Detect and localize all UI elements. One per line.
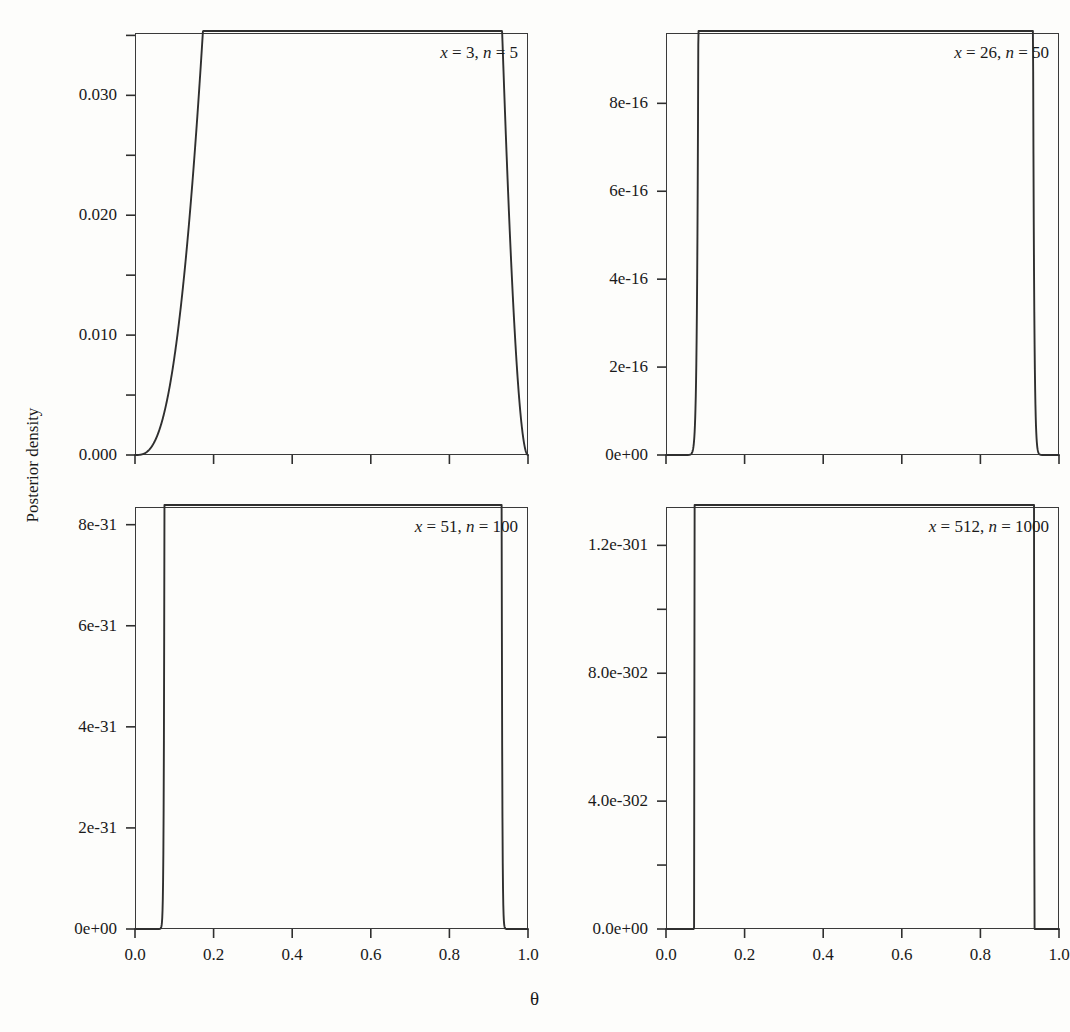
y-tick-label: 6e-31 xyxy=(78,616,117,636)
y-tick-label: 1.2e-301 xyxy=(588,535,648,555)
y-tick-label: 4e-16 xyxy=(609,269,648,289)
x-axis-title: θ xyxy=(0,988,1069,1010)
density-curve xyxy=(135,31,528,455)
x-tick-label: 0.8 xyxy=(970,945,991,965)
x-tick-label: 0.2 xyxy=(734,945,755,965)
x-tick-label: 1.0 xyxy=(517,945,538,965)
y-tick-label: 2e-16 xyxy=(609,357,648,377)
chart-panel-x3-n5: x = 3, n = 5 0.0000.0100.0200.030 xyxy=(135,33,528,455)
panel-annotation: x = 26, n = 50 xyxy=(954,43,1049,63)
x-tick-label: 0.6 xyxy=(360,945,381,965)
y-tick-label: 0.030 xyxy=(79,85,117,105)
density-curve xyxy=(666,31,1059,455)
panel-plot-area xyxy=(135,33,528,455)
density-curve xyxy=(135,505,528,929)
chart-panel-x26-n50: x = 26, n = 50 0e+002e-164e-166e-168e-16 xyxy=(666,33,1059,455)
x-tick-label: 0.8 xyxy=(439,945,460,965)
y-tick-label: 4e-31 xyxy=(78,717,117,737)
x-tick-label: 0.4 xyxy=(813,945,834,965)
y-tick-label: 0e+00 xyxy=(605,445,648,465)
y-tick-label: 0.010 xyxy=(79,325,117,345)
chart-panel-x512-n1000: x = 512, n = 1000 0.0e+004.0e-3028.0e-30… xyxy=(666,507,1059,929)
y-tick-label: 0.000 xyxy=(79,445,117,465)
panel-plot-area xyxy=(666,33,1059,455)
y-tick-label: 8e-31 xyxy=(78,515,117,535)
panel-annotation: x = 51, n = 100 xyxy=(415,517,518,537)
y-tick-label: 0.0e+00 xyxy=(593,919,648,939)
y-tick-label: 8.0e-302 xyxy=(588,663,648,683)
chart-panel-x51-n100: x = 51, n = 100 0e+002e-314e-316e-318e-3… xyxy=(135,507,528,929)
y-tick-label: 8e-16 xyxy=(609,93,648,113)
x-tick-label: 0.6 xyxy=(891,945,912,965)
y-tick-label: 4.0e-302 xyxy=(588,791,648,811)
y-tick-label: 0.020 xyxy=(79,205,117,225)
density-curve xyxy=(666,505,1059,929)
y-tick-label: 0e+00 xyxy=(74,919,117,939)
y-tick-label: 6e-16 xyxy=(609,181,648,201)
x-tick-label: 0.0 xyxy=(655,945,676,965)
panel-annotation: x = 512, n = 1000 xyxy=(929,517,1049,537)
x-tick-label: 1.0 xyxy=(1048,945,1069,965)
panel-plot-area xyxy=(135,507,528,929)
y-axis-title: Posterior density xyxy=(23,370,43,560)
x-tick-label: 0.2 xyxy=(203,945,224,965)
x-tick-label: 0.4 xyxy=(282,945,303,965)
panel-plot-area xyxy=(666,507,1059,929)
y-tick-label: 2e-31 xyxy=(78,818,117,838)
panel-annotation: x = 3, n = 5 xyxy=(440,43,518,63)
x-tick-label: 0.0 xyxy=(124,945,145,965)
